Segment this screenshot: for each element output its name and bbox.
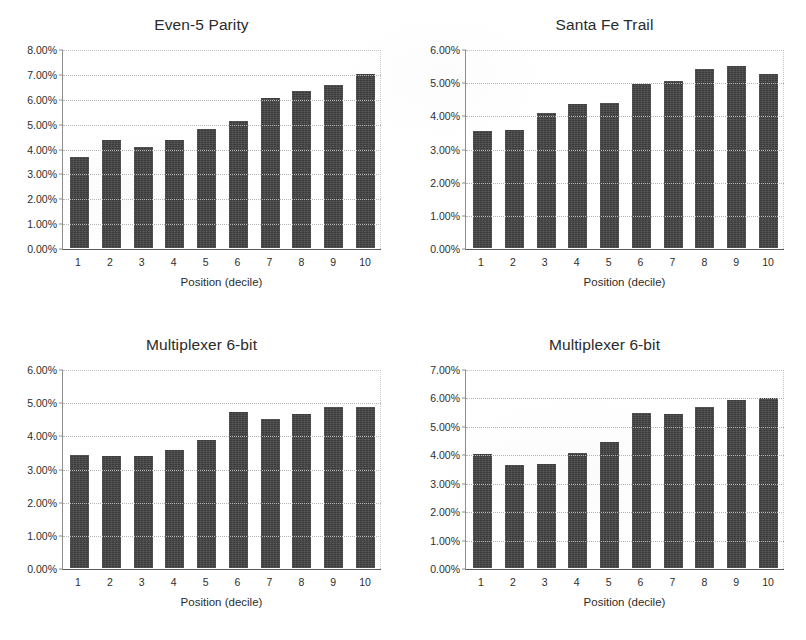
bar xyxy=(197,440,216,568)
bar xyxy=(356,407,375,568)
y-tick-label: 2.00% xyxy=(430,506,460,518)
x-axis-label: Position (decile) xyxy=(465,596,784,608)
gridline xyxy=(63,174,381,175)
bar xyxy=(568,453,587,568)
y-tick-mark xyxy=(462,215,466,216)
y-tick-mark xyxy=(59,535,63,536)
y-tick-mark xyxy=(462,116,466,117)
bar xyxy=(134,456,153,568)
x-tick-label: 9 xyxy=(317,576,349,588)
bar xyxy=(70,157,89,248)
gridline xyxy=(63,436,381,437)
y-tick-mark xyxy=(462,182,466,183)
y-tick-mark xyxy=(59,149,63,150)
bar xyxy=(664,414,683,568)
y-tick-label: 5.00% xyxy=(27,119,57,131)
gridline xyxy=(63,370,381,371)
y-tick-label: 7.00% xyxy=(430,364,460,376)
gridline xyxy=(63,224,381,225)
x-tick-labels: 12345678910 xyxy=(62,576,381,588)
gridline xyxy=(466,116,784,117)
chart-title: Even-5 Parity xyxy=(0,0,403,36)
y-tick-label: 0.00% xyxy=(430,243,460,255)
y-tick-label: 6.00% xyxy=(27,364,57,376)
gridline xyxy=(63,50,381,51)
gridline xyxy=(466,512,784,513)
bar xyxy=(632,413,651,568)
plot-wrap: 0.00%1.00%2.00%3.00%4.00%5.00%6.00%7.00%… xyxy=(62,50,381,250)
chart-panel-multiplexer-6-bit-a: Multiplexer 6-bit 0.00%1.00%2.00%3.00%4.… xyxy=(0,320,403,640)
y-tick-mark xyxy=(59,403,63,404)
plot-wrap: 0.00%1.00%2.00%3.00%4.00%5.00%6.00%7.00% xyxy=(465,370,784,570)
bar xyxy=(568,104,587,248)
y-tick-mark xyxy=(462,426,466,427)
y-tick-mark xyxy=(59,199,63,200)
bar xyxy=(759,74,778,248)
y-tick-label: 7.00% xyxy=(27,69,57,81)
y-tick-mark xyxy=(59,502,63,503)
x-tick-label: 10 xyxy=(349,576,381,588)
y-tick-mark xyxy=(59,469,63,470)
gridline xyxy=(466,50,784,51)
bar xyxy=(229,412,248,568)
bar xyxy=(537,464,556,568)
bar-slot xyxy=(499,370,531,568)
bar-slot xyxy=(689,370,721,568)
bar xyxy=(165,140,184,248)
y-tick-mark xyxy=(462,455,466,456)
x-tick-label: 2 xyxy=(497,576,529,588)
y-tick-mark xyxy=(59,174,63,175)
bar-slot xyxy=(721,370,753,568)
x-tick-label: 9 xyxy=(720,576,752,588)
gridline xyxy=(466,216,784,217)
bar-slot xyxy=(626,370,658,568)
bar xyxy=(600,442,619,568)
plot-wrap: 0.00%1.00%2.00%3.00%4.00%5.00%6.00% xyxy=(62,370,381,570)
x-tick-labels: 12345678910 xyxy=(465,256,784,268)
bar xyxy=(229,121,248,248)
x-tick-label: 6 xyxy=(625,576,657,588)
plot-area: 0.00%1.00%2.00%3.00%4.00%5.00%6.00%7.00% xyxy=(465,370,784,570)
x-tick-label: 3 xyxy=(529,576,561,588)
y-tick-mark xyxy=(59,74,63,75)
y-tick-label: 3.00% xyxy=(430,478,460,490)
gridline xyxy=(63,100,381,101)
x-tick-label: 2 xyxy=(497,256,529,268)
bar-slot xyxy=(752,370,784,568)
gridline xyxy=(63,125,381,126)
x-tick-label: 8 xyxy=(285,576,317,588)
y-tick-mark xyxy=(59,249,63,250)
bar xyxy=(695,407,714,568)
y-tick-label: 3.00% xyxy=(27,464,57,476)
bar xyxy=(505,465,524,568)
x-tick-label: 1 xyxy=(62,256,94,268)
x-tick-label: 3 xyxy=(126,576,158,588)
x-tick-label: 5 xyxy=(593,256,625,268)
y-tick-label: 5.00% xyxy=(430,77,460,89)
y-tick-label: 1.00% xyxy=(430,210,460,222)
bar xyxy=(197,129,216,248)
y-tick-mark xyxy=(59,50,63,51)
plot-wrap: 0.00%1.00%2.00%3.00%4.00%5.00%6.00% xyxy=(465,50,784,250)
y-tick-mark xyxy=(462,50,466,51)
bar xyxy=(600,103,619,248)
x-tick-label: 10 xyxy=(752,576,784,588)
y-tick-mark xyxy=(59,569,63,570)
x-tick-label: 7 xyxy=(253,576,285,588)
gridline xyxy=(63,150,381,151)
x-tick-label: 1 xyxy=(62,576,94,588)
y-tick-label: 0.00% xyxy=(430,563,460,575)
y-tick-label: 2.00% xyxy=(430,177,460,189)
bar-slot xyxy=(562,370,594,568)
chart-title: Santa Fe Trail xyxy=(403,0,806,36)
chart-panel-multiplexer-6-bit-b: Multiplexer 6-bit 0.00%1.00%2.00%3.00%4.… xyxy=(403,320,806,640)
x-tick-label: 2 xyxy=(94,256,126,268)
x-tick-label: 10 xyxy=(349,256,381,268)
gridline xyxy=(466,398,784,399)
bar-slot xyxy=(530,370,562,568)
bar xyxy=(102,140,121,248)
gridline xyxy=(63,503,381,504)
y-tick-mark xyxy=(462,149,466,150)
plot-area: 0.00%1.00%2.00%3.00%4.00%5.00%6.00% xyxy=(465,50,784,250)
x-tick-label: 9 xyxy=(720,256,752,268)
